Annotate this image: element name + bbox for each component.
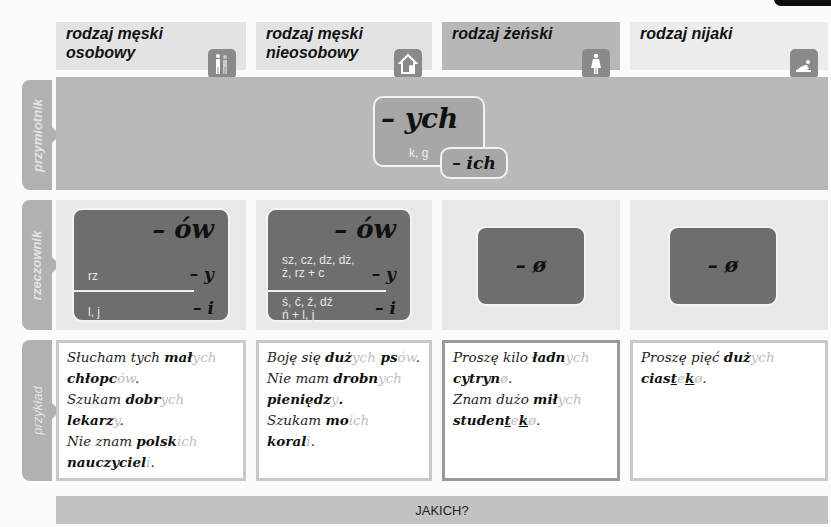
noun-alt-ending: – i: [375, 298, 396, 318]
example-line: nauczycieli.: [67, 452, 235, 473]
example-line: lekarzy.: [67, 410, 235, 431]
punct: .: [119, 412, 123, 428]
stem: dobr: [125, 391, 160, 407]
column-title: rodzaj nijaki: [640, 24, 818, 43]
example-cell-masculine-impersonal: Boję się dużych psów. Nie mam drobnych p…: [256, 340, 432, 481]
stem: mił: [533, 391, 558, 407]
ending: ø: [500, 370, 508, 386]
noun-cell-masculine-personal: – ów rz – y l, j – i: [56, 200, 246, 330]
cons-line: ż, rz + c: [282, 266, 324, 280]
noun-zero-ending: – ø: [478, 253, 584, 277]
example-line: chłopców.: [67, 368, 235, 389]
title-line: nieosobowy: [266, 44, 358, 61]
row-label-adjective: przymiotnik: [22, 80, 52, 190]
ending: ych: [160, 391, 184, 407]
noun-zero-ending: – ø: [670, 253, 776, 277]
question-text: JAKICH?: [415, 503, 468, 518]
title-line: rodzaj nijaki: [640, 25, 732, 42]
punct: .: [416, 349, 420, 365]
stem: duż: [325, 349, 352, 365]
corner-tab: [774, 0, 831, 6]
stem: polsk: [136, 433, 177, 449]
noun-alt-ending: – i: [193, 298, 214, 318]
plain-text: Znam dużo: [453, 391, 533, 407]
noun-ending-box: – ø: [668, 226, 778, 306]
example-line: Słucham tych małych: [67, 347, 235, 368]
stem: studen: [453, 412, 505, 428]
example-line: Proszę pięć dużych: [641, 347, 817, 368]
stem: ładn: [532, 349, 565, 365]
row-label-noun: rzeczownik: [22, 200, 52, 330]
consonant-condition: sz, cz, dz, dż,ż, rz + c: [282, 254, 355, 280]
noun-alt-ending: – y: [190, 264, 214, 284]
stem: drobn: [333, 370, 378, 386]
example-line: pieniędzy.: [267, 389, 421, 410]
plain-text: Proszę kilo: [453, 349, 532, 365]
punct: .: [151, 454, 155, 470]
noun-cell-feminine: – ø: [442, 200, 620, 330]
stem: koral: [267, 433, 306, 449]
child-crawling-icon: [790, 49, 818, 79]
row-label-example: przykład: [22, 340, 52, 481]
adjective-main-ending: – ych: [381, 102, 458, 135]
title-line: rodzaj żeński: [452, 25, 552, 42]
stem: nauczyciel: [67, 454, 146, 470]
column-header-masculine-personal: rodzaj męskiosobowy: [56, 22, 246, 70]
ending: ów: [398, 349, 416, 365]
punct: .: [702, 370, 706, 386]
row-label-text: rzeczownik: [30, 230, 45, 299]
consonant-condition: rz: [88, 270, 98, 283]
divider: [72, 290, 194, 292]
punct: .: [311, 433, 315, 449]
woman-icon: [582, 49, 610, 79]
consonant-condition: ś, ć, ź, dźń + l, j: [282, 296, 333, 322]
men-group-icon: [208, 49, 236, 79]
ending: ych: [352, 349, 376, 365]
example-cell-masculine-personal: Słucham tych małych chłopców. Szukam dob…: [56, 340, 246, 481]
example-line: cytrynø.: [453, 368, 609, 389]
example-line: Nie mam drobnych: [267, 368, 421, 389]
example-line: Szukam dobrych: [67, 389, 235, 410]
stem: chłopc: [67, 370, 117, 386]
ending: ych: [565, 349, 589, 365]
ending: ych: [193, 349, 217, 365]
noun-ending-box: – ø: [476, 226, 586, 306]
question-bar: JAKICH?: [56, 496, 828, 524]
column-header-masculine-impersonal: rodzaj męskinieosobowy: [256, 22, 432, 70]
plain-text: Proszę pięć: [641, 349, 724, 365]
punct: .: [536, 412, 540, 428]
ending: ych: [378, 370, 402, 386]
plain-text: Szukam: [67, 391, 125, 407]
cons-line: ń + l, j: [282, 308, 314, 322]
row-label-text: przymiotnik: [30, 99, 45, 172]
noun-main-ending: – ów: [152, 214, 214, 244]
stem: mał: [164, 349, 192, 365]
cons-line: sz, cz, dz, dż,: [282, 253, 355, 267]
underlined-letter: k: [519, 412, 528, 428]
ending: ich: [349, 412, 370, 428]
underlined-letter: k: [685, 370, 694, 386]
noun-ending-box: – ów rz – y l, j – i: [72, 208, 230, 322]
inserted-vowel: e: [511, 412, 519, 428]
ending: ich: [177, 433, 198, 449]
consonant-condition: l, j: [88, 306, 100, 319]
plain-text: Słucham tych: [67, 349, 164, 365]
example-line: Szukam moich korali.: [267, 410, 421, 452]
plain-text: Nie mam: [267, 370, 333, 386]
house-animal-icon: [394, 49, 422, 79]
stem: mo: [325, 412, 348, 428]
title-line: osobowy: [66, 44, 135, 61]
plain-text: Nie znam: [67, 433, 136, 449]
punct: .: [135, 370, 139, 386]
example-line: Boję się dużych psów.: [267, 347, 421, 368]
ending: ych: [558, 391, 582, 407]
example-line: ciastekø.: [641, 368, 817, 389]
stem: duż: [724, 349, 751, 365]
stem: cytryn: [453, 370, 500, 386]
stem: ps: [376, 349, 398, 365]
example-line: Nie znam polskich: [67, 431, 235, 452]
example-cell-feminine: Proszę kilo ładnych cytrynø. Znam dużo m…: [442, 340, 620, 481]
adjective-condition: k, g: [409, 146, 428, 160]
example-cell-neuter: Proszę pięć dużych ciastekø.: [630, 340, 828, 481]
noun-ending-box: – ów sz, cz, dz, dż,ż, rz + c – y ś, ć, …: [266, 208, 412, 322]
